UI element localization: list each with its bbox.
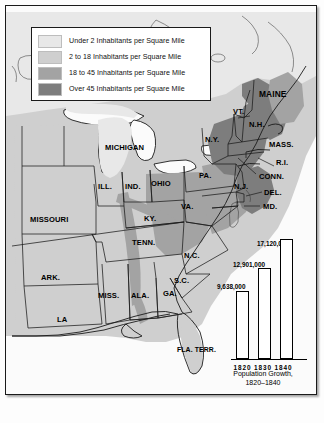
legend-item-18-to-45: 18 to 45 Inhabitants per Square Mile: [38, 65, 204, 81]
label-nj: N.J.: [234, 182, 248, 191]
bar-value-1820: 9,638,000: [217, 283, 245, 290]
label-nh: N.H.: [249, 120, 265, 129]
chart-caption-line1: Population Growth,: [215, 370, 311, 378]
legend-label-18-to-45: 18 to 45 Inhabitants per Square Mile: [69, 69, 185, 77]
legend-swatch-18-to-45: [38, 67, 62, 80]
chart-baseline: [231, 359, 307, 360]
bar-1840: [280, 239, 293, 359]
label-del: DEL.: [264, 188, 282, 197]
bar-1830: [258, 268, 271, 359]
label-vt: VT.: [233, 107, 244, 116]
label-maine: MAINE: [259, 89, 287, 99]
label-ga: GA.: [163, 289, 177, 298]
label-mass: MASS.: [269, 140, 294, 149]
label-sc: S.C.: [174, 276, 189, 285]
label-va: VA.: [181, 202, 193, 211]
label-md: MD.: [263, 202, 277, 211]
label-tenn: TENN.: [132, 238, 155, 247]
label-ark: ARK.: [41, 273, 60, 282]
label-ny: N.Y.: [205, 135, 219, 144]
chart-caption: Population Growth, 1820–1840: [215, 370, 311, 387]
population-growth-chart: 9,638,000 12,901,000 17,120,000 1820 183…: [215, 239, 311, 387]
label-ind: IND.: [125, 182, 141, 191]
legend: Under 2 Inhabitants per Square Mile 2 to…: [31, 27, 211, 101]
map-frame: .d1{fill:#e8e8e8;} /* under 2 */ .d2{fil…: [5, 5, 317, 395]
label-ri: R.I.: [276, 158, 288, 167]
legend-item-2-to-18: 2 to 18 Inhabitants per Square Mile: [38, 49, 204, 65]
label-ky: KY.: [144, 214, 156, 223]
bar-value-1830: 12,901,000: [233, 261, 265, 268]
label-ala: ALA.: [131, 291, 149, 300]
legend-swatch-2-to-18: [38, 51, 62, 64]
legend-label-under-2: Under 2 Inhabitants per Square Mile: [69, 37, 185, 45]
label-la: LA: [57, 315, 67, 324]
legend-item-under-2: Under 2 Inhabitants per Square Mile: [38, 33, 204, 49]
label-miss: MISS.: [98, 291, 119, 300]
legend-item-over-45: Over 45 Inhabitants per Square Mile: [38, 81, 204, 97]
legend-label-over-45: Over 45 Inhabitants per Square Mile: [69, 85, 185, 93]
label-ill: ILL.: [98, 182, 112, 191]
legend-swatch-under-2: [38, 35, 62, 48]
label-fla-terr: FLA. TERR.: [177, 345, 205, 354]
label-pa: PA.: [199, 171, 211, 180]
label-nc: N.C.: [184, 251, 200, 260]
label-missouri: MISSOURI: [30, 215, 68, 224]
legend-label-2-to-18: 2 to 18 Inhabitants per Square Mile: [69, 53, 181, 61]
label-michigan: MICHIGAN: [105, 143, 144, 152]
label-conn: CONN.: [259, 172, 284, 181]
label-ohio: OHIO: [151, 179, 171, 188]
legend-swatch-over-45: [38, 83, 62, 96]
chart-caption-line2: 1820–1840: [215, 379, 311, 387]
bar-1820: [236, 291, 249, 359]
